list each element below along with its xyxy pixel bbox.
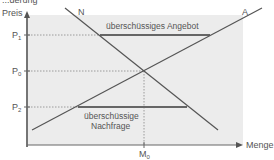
supply-demand-diagram: ...derung Preis Menge P1 P0 P2 M0 N A üb…: [0, 0, 274, 160]
p1-label: P1: [12, 30, 22, 41]
supply-label: A: [242, 7, 248, 17]
cut-heading: ...derung: [2, 0, 38, 5]
y-axis-label: Preis: [2, 8, 23, 18]
demand-label: N: [78, 7, 85, 17]
y-axis-arrow-icon: [24, 11, 30, 18]
excess-supply-label: überschüssiges Angebot: [106, 21, 199, 31]
m0-label: M0: [139, 149, 151, 160]
p2-label: P2: [12, 102, 22, 113]
excess-demand-label-line1: überschüssige: [84, 111, 139, 121]
x-axis-label: Menge: [246, 140, 274, 150]
p0-label: P0: [12, 66, 22, 77]
excess-demand-label-line2: Nachfrage: [91, 121, 130, 131]
